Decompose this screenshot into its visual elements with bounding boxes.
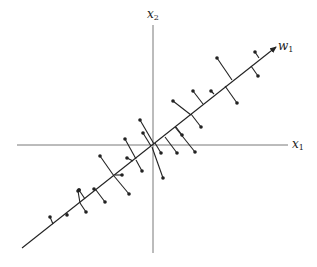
data-point <box>193 150 197 154</box>
projection-segment <box>191 114 201 127</box>
data-point <box>256 74 260 78</box>
projection-segment <box>100 156 114 176</box>
w1-principal-axis-line <box>22 47 276 248</box>
projection-segment <box>175 127 195 152</box>
data-point <box>253 50 257 54</box>
projection-segment <box>217 58 232 80</box>
x1-label-sub: 1 <box>299 143 304 152</box>
pca-projection-diagram: x2 x1 w1 <box>0 0 317 267</box>
data-point <box>209 89 213 93</box>
projection-segment <box>193 91 203 104</box>
data-point <box>123 137 127 141</box>
x2-label-sub: 2 <box>154 13 159 22</box>
projection-segment <box>78 191 80 203</box>
projection-segment <box>136 160 142 171</box>
diagram-svg <box>0 0 317 267</box>
data-points-group <box>48 50 260 224</box>
data-point <box>127 192 131 196</box>
x1-axis-label: x1 <box>292 138 304 152</box>
data-point <box>103 200 107 204</box>
data-point <box>171 99 175 103</box>
data-point <box>48 215 52 219</box>
projection-segment <box>143 133 151 146</box>
w1-axis-label: w1 <box>278 40 293 54</box>
data-point <box>125 156 129 160</box>
w1-label-sub: 1 <box>288 45 293 54</box>
data-point <box>159 151 163 155</box>
projection-segment <box>225 86 237 103</box>
data-point <box>141 131 145 135</box>
data-point <box>76 189 80 193</box>
x2-label-main: x <box>147 7 154 21</box>
data-point <box>199 125 203 129</box>
data-point <box>235 101 239 105</box>
data-point <box>98 154 102 158</box>
data-point <box>175 151 179 155</box>
data-point <box>138 118 142 122</box>
data-point <box>92 187 96 191</box>
projection-segment <box>125 139 136 159</box>
data-point <box>65 213 69 217</box>
data-point <box>84 210 88 214</box>
projection-segment <box>114 176 129 194</box>
w1-label-main: w <box>278 39 288 53</box>
projection-segment <box>251 66 258 76</box>
x2-axis-label: x2 <box>147 8 159 22</box>
data-point <box>215 56 219 60</box>
projection-segment <box>173 101 191 115</box>
data-point <box>140 169 144 173</box>
data-point <box>161 176 165 180</box>
data-point <box>120 173 124 177</box>
x1-label-main: x <box>292 137 299 151</box>
projection-segment <box>96 190 105 202</box>
data-point <box>191 89 195 93</box>
